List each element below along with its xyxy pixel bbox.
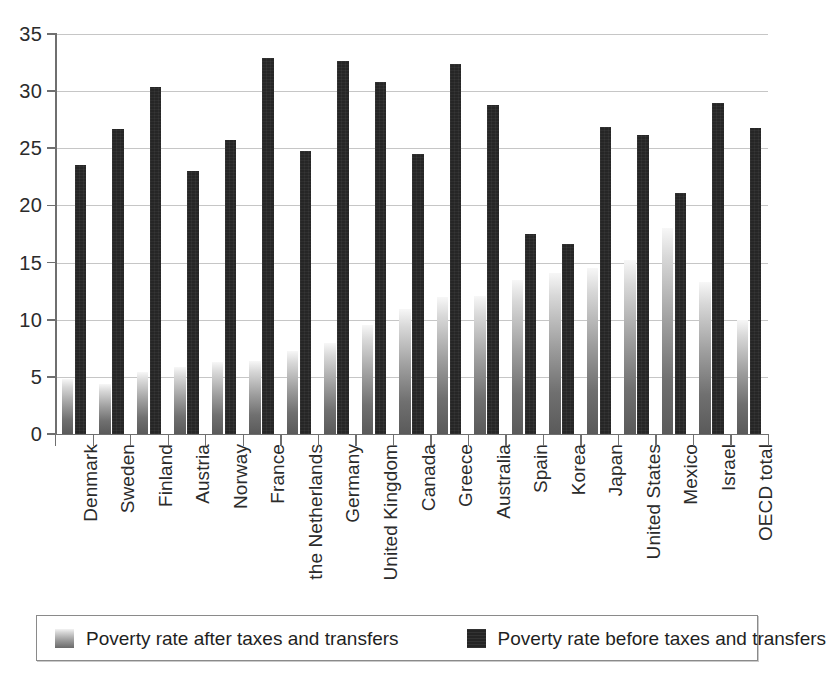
bar-before-taxes <box>450 64 462 434</box>
bar-before-taxes <box>637 135 649 434</box>
x-axis-label: Austria <box>193 444 212 504</box>
y-tick-label: 20 <box>8 195 42 215</box>
legend-label-after-taxes: Poverty rate after taxes and transfers <box>86 629 399 648</box>
bar-after-taxes <box>174 367 186 434</box>
bar-group <box>505 34 543 434</box>
x-axis-label: the Netherlands <box>306 444 325 580</box>
x-axis-label: Finland <box>156 444 175 507</box>
x-tick-mark <box>355 435 356 446</box>
chart-legend: Poverty rate after taxes and transfers P… <box>36 615 758 661</box>
x-tick-mark <box>243 435 244 446</box>
bar-before-taxes <box>712 103 724 434</box>
bar-group <box>93 34 131 434</box>
x-tick-mark <box>543 435 544 446</box>
x-tick-mark <box>468 435 469 446</box>
bar-group <box>730 34 768 434</box>
bar-group <box>543 34 581 434</box>
bar-after-taxes <box>737 320 749 434</box>
x-axis-label: Germany <box>343 444 362 523</box>
bar-after-taxes <box>399 309 411 434</box>
x-axis-label: Israel <box>719 444 738 491</box>
bar-after-taxes <box>362 325 374 434</box>
y-tick-label: 0 <box>8 424 42 444</box>
x-tick-mark <box>280 435 281 446</box>
bar-before-taxes <box>412 154 424 434</box>
bar-after-taxes <box>512 280 524 434</box>
bar-after-taxes <box>549 273 561 434</box>
y-tick-label: 35 <box>8 24 42 44</box>
bar-after-taxes <box>137 372 149 434</box>
bar-before-taxes <box>150 87 162 434</box>
legend-swatch-before-taxes-icon <box>467 629 486 648</box>
x-tick-mark <box>505 435 506 446</box>
bar-after-taxes <box>249 361 261 434</box>
bar-group <box>243 34 281 434</box>
x-tick-mark <box>130 435 131 446</box>
bar-group <box>618 34 656 434</box>
x-tick-mark <box>93 435 94 446</box>
x-axis-label: Korea <box>569 444 588 495</box>
x-axis-label: Greece <box>456 444 475 507</box>
bar-group <box>55 34 93 434</box>
bar-before-taxes <box>675 193 687 434</box>
bar-after-taxes <box>587 268 599 434</box>
x-axis-label: Denmark <box>81 444 100 522</box>
bar-before-taxes <box>225 140 237 434</box>
x-axis-label: Canada <box>419 444 438 511</box>
bar-group <box>355 34 393 434</box>
x-tick-mark <box>393 435 394 446</box>
bar-group <box>280 34 318 434</box>
bar-before-taxes <box>375 82 387 434</box>
legend-label-before-taxes: Poverty rate before taxes and transfers <box>498 629 826 648</box>
x-tick-mark <box>768 435 769 446</box>
y-tick-label: 5 <box>8 367 42 387</box>
bar-before-taxes <box>112 129 124 434</box>
bar-before-taxes <box>487 105 499 434</box>
bars-container <box>55 34 768 434</box>
bar-after-taxes <box>474 296 486 434</box>
legend-swatch-after-taxes-icon <box>55 629 74 648</box>
x-tick-mark <box>430 435 431 446</box>
bar-group <box>318 34 356 434</box>
x-tick-mark <box>55 435 56 446</box>
x-tick-mark <box>655 435 656 446</box>
bar-after-taxes <box>324 343 336 434</box>
legend-item-after-taxes: Poverty rate after taxes and transfers <box>55 629 399 648</box>
y-tick-label: 15 <box>8 253 42 273</box>
bar-after-taxes <box>99 384 111 434</box>
bar-group <box>393 34 431 434</box>
bar-group <box>693 34 731 434</box>
x-axis-label: Australia <box>494 444 513 519</box>
x-tick-mark <box>205 435 206 446</box>
y-tick-label: 10 <box>8 310 42 330</box>
bar-group <box>205 34 243 434</box>
plot-area: 05101520253035 DenmarkSwedenFinlandAustr… <box>0 0 796 600</box>
x-tick-mark <box>618 435 619 446</box>
x-axis-label: Spain <box>531 444 550 493</box>
x-axis-label: Norway <box>231 444 250 509</box>
x-axis-label: OECD total <box>756 444 775 541</box>
bar-group <box>655 34 693 434</box>
x-tick-mark <box>580 435 581 446</box>
x-axis-label: Sweden <box>118 444 137 513</box>
x-axis-label: Mexico <box>681 444 700 505</box>
x-axis-label: United Kingdom <box>381 444 400 581</box>
bar-before-taxes <box>300 151 312 434</box>
bar-after-taxes <box>624 260 636 434</box>
bar-after-taxes <box>437 297 449 434</box>
bar-group <box>468 34 506 434</box>
x-tick-mark <box>168 435 169 446</box>
bar-before-taxes <box>262 58 274 434</box>
bar-after-taxes <box>212 362 224 434</box>
bar-after-taxes <box>662 228 674 434</box>
bar-before-taxes <box>525 234 537 434</box>
x-axis-label: France <box>268 444 287 504</box>
bar-after-taxes <box>62 379 74 434</box>
bar-before-taxes <box>187 171 199 434</box>
bar-before-taxes <box>750 128 762 434</box>
bar-before-taxes <box>337 61 349 434</box>
bar-before-taxes <box>600 127 612 434</box>
bar-before-taxes <box>562 244 574 434</box>
x-tick-mark <box>730 435 731 446</box>
x-tick-mark <box>693 435 694 446</box>
